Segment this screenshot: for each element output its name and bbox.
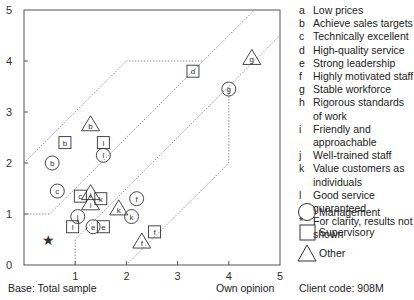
- y-tick-label: 5: [6, 4, 12, 16]
- legend-text: Low prices: [313, 4, 414, 17]
- marker-label: d: [191, 67, 195, 76]
- legend-supervisory: Supervisory: [297, 222, 374, 242]
- marker-label: j: [76, 213, 79, 222]
- legend-text: Stable workforce: [313, 83, 414, 96]
- legend-management-label: Management: [319, 206, 380, 218]
- x-tick-label: 1: [72, 270, 78, 282]
- marker-label: f: [136, 195, 139, 204]
- y-tick-label: 4: [6, 55, 12, 67]
- legend-supervisory-label: Supervisory: [319, 226, 374, 238]
- marker-label: k: [117, 206, 122, 215]
- legend-text: Highly motivated staff: [313, 70, 414, 83]
- legend-key: i: [299, 123, 313, 149]
- legend-item: dHigh-quality service: [299, 44, 414, 57]
- legend-text: High-quality service: [313, 44, 414, 57]
- legend-item: hRigorous standards of work: [299, 96, 414, 122]
- circle-icon: [297, 202, 317, 222]
- legend-item: eStrong leadership: [299, 57, 414, 70]
- marker-label: e: [91, 223, 96, 232]
- marker-label: k: [130, 213, 135, 222]
- marker-label: i: [90, 201, 92, 210]
- marker-label: e: [101, 223, 106, 232]
- boundary-line-upper-inner: [24, 10, 254, 214]
- x-tick-label: 4: [226, 270, 232, 282]
- legend-key: b: [299, 17, 313, 30]
- legend-item: bAchieve sales targets: [299, 17, 414, 30]
- client-code: Client code: 908M: [299, 282, 384, 294]
- y-tick-label: 2: [6, 157, 12, 169]
- marker-label: f: [153, 228, 156, 237]
- legend-key: h: [299, 96, 313, 122]
- plot-frame: [24, 10, 280, 265]
- y-tick-label: 3: [6, 106, 12, 118]
- marker-label: b: [50, 159, 55, 168]
- x-tick-label: 2: [123, 270, 129, 282]
- y-tick-label: 1: [6, 208, 12, 220]
- x-tick-label: 3: [175, 270, 181, 282]
- legend-item: fHighly motivated staff: [299, 70, 414, 83]
- legend-key: a: [299, 4, 313, 17]
- marker-label: ★: [42, 232, 55, 248]
- legend-key: k: [299, 162, 313, 188]
- marker-label: l: [102, 151, 104, 160]
- legend-key: j: [299, 149, 313, 162]
- legend-text: Friendly and approachable: [313, 123, 414, 149]
- marker-label: l: [72, 223, 74, 232]
- marker-label: b: [63, 139, 68, 148]
- marker-label: l: [102, 139, 104, 148]
- y-tick-label: 0: [6, 259, 12, 271]
- legend-key: e: [299, 57, 313, 70]
- x-tick-label: 5: [277, 270, 283, 282]
- legend-text: Rigorous standards of work: [313, 96, 414, 122]
- legend-item: iFriendly and approachable: [299, 123, 414, 149]
- legend-key: c: [299, 30, 313, 43]
- legend-text: Value customers as individuals: [313, 162, 414, 188]
- legend-item: kValue customers as individuals: [299, 162, 414, 188]
- legend-text: Achieve sales targets: [313, 17, 414, 30]
- marker-label: g: [227, 85, 231, 94]
- legend-item: cTechnically excellent: [299, 30, 414, 43]
- square-icon: [297, 222, 317, 242]
- legend-key: g: [299, 83, 313, 96]
- legend-management: Management: [297, 202, 380, 222]
- x-axis-label: Own opinion: [216, 282, 274, 294]
- boundary-line-lower-inner: [75, 36, 280, 266]
- marker-label: b: [88, 122, 93, 131]
- legend-other-label: Other: [319, 247, 345, 259]
- legend-text: Well-trained staff: [313, 149, 414, 162]
- legend-item: aLow prices: [299, 4, 414, 17]
- boundary-line-upper-outer: [24, 61, 203, 163]
- scatter-chart: 01234512345bcefgjklbcdefkllbfgikl★: [0, 0, 296, 300]
- triangle-icon: [297, 243, 317, 263]
- legend-item: jWell-trained staff: [299, 149, 414, 162]
- marker-label: g: [250, 55, 254, 64]
- base-note: Base: Total sample: [8, 282, 97, 294]
- marker-label: c: [55, 187, 59, 196]
- legend-key: d: [299, 44, 313, 57]
- legend-item: gStable workforce: [299, 83, 414, 96]
- marker-label: f: [141, 239, 144, 248]
- marker-label: l: [90, 191, 92, 200]
- legend-text: Strong leadership: [313, 57, 414, 70]
- legend-other: Other: [297, 243, 345, 263]
- legend-text: Technically excellent: [313, 30, 414, 43]
- legend-key: f: [299, 70, 313, 83]
